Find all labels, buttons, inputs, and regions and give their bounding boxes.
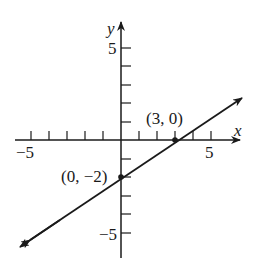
point-0-neg2 bbox=[118, 174, 124, 180]
x-tick-label-5: 5 bbox=[205, 143, 214, 162]
y-tick-label-5: 5 bbox=[108, 39, 117, 58]
point-label-0-neg2: (0, −2) bbox=[61, 167, 107, 186]
point-3-0 bbox=[172, 137, 178, 143]
point-label-3-0: (3, 0) bbox=[146, 109, 183, 128]
coordinate-plane: y x 5 −5 −5 5 (3, 0) (0, −2) bbox=[0, 0, 265, 269]
y-axis-label: y bbox=[105, 19, 115, 38]
x-axis-label: x bbox=[233, 121, 242, 140]
y-tick-label-neg5: −5 bbox=[99, 225, 117, 244]
x-tick-label-neg5: −5 bbox=[16, 143, 34, 162]
